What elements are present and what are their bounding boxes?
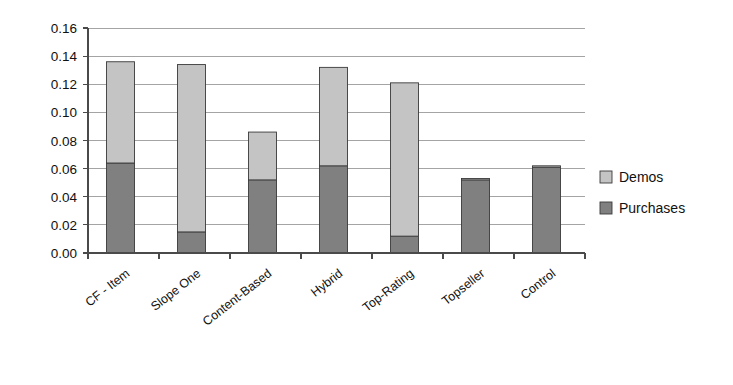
y-axis-tick-label: 0.04 (51, 190, 78, 205)
y-axis-tick-label: 0.08 (51, 134, 77, 149)
bar-segment-demos (178, 65, 206, 232)
x-axis-category-label: CF - Item (83, 266, 133, 309)
y-axis-tick-label: 0.06 (51, 162, 77, 177)
legend-label-purchases: Purchases (619, 200, 685, 216)
bar-segment-purchases (391, 236, 419, 253)
chart-legend: DemosPurchases (600, 169, 685, 216)
bar-segment-demos (533, 166, 561, 167)
bar-segment-demos (107, 62, 135, 163)
y-axis-tick-label: 0.02 (51, 218, 77, 233)
x-axis-category-label: Top-Rating (360, 266, 416, 314)
legend-label-demos: Demos (619, 169, 663, 185)
bar-segment-purchases (320, 166, 348, 253)
bar-segment-demos (320, 67, 348, 165)
x-axis-category-labels: CF - ItemSlope OneContent-BasedHybridTop… (83, 266, 559, 328)
bar-segment-demos (462, 178, 490, 179)
chart-container: 0.160.140.120.100.080.060.040.020.00 CF … (0, 0, 733, 385)
y-axis-tick-label: 0.14 (51, 49, 78, 64)
y-axis-tick-label: 0.10 (51, 105, 77, 120)
bar-segment-purchases (462, 180, 490, 253)
legend-swatch-demos (600, 171, 612, 183)
legend-swatch-purchases (600, 202, 612, 214)
stacked-bar-chart: 0.160.140.120.100.080.060.040.020.00 CF … (0, 0, 733, 385)
y-axis-tick-label: 0.12 (51, 77, 77, 92)
bar-segment-demos (249, 132, 277, 180)
x-axis-category-label: Control (518, 266, 558, 302)
y-axis-tick-label: 0.00 (51, 246, 77, 261)
y-axis-tick-label: 0.16 (51, 21, 77, 36)
bar-segment-purchases (533, 167, 561, 253)
bar-series (107, 62, 561, 253)
x-axis-category-label: Topseller (439, 266, 487, 308)
y-axis-tick-labels: 0.160.140.120.100.080.060.040.020.00 (51, 21, 78, 261)
bar-segment-purchases (107, 163, 135, 253)
x-axis-category-label: Slope One (148, 266, 203, 313)
bar-segment-purchases (249, 180, 277, 253)
bar-segment-demos (391, 83, 419, 236)
bar-segment-purchases (178, 232, 206, 253)
x-axis-category-label: Content-Based (200, 266, 274, 328)
x-axis-category-label: Hybrid (308, 266, 345, 299)
